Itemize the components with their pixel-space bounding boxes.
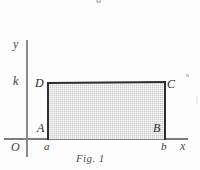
- y-tick-label-k: k: [13, 75, 18, 87]
- origin-label: O: [11, 141, 20, 153]
- figure-canvas: 0 y k O x A B C D a b Fig. 1: [0, 0, 200, 170]
- scan-edge-artifact: [196, 96, 198, 104]
- vertex-label-d: D: [35, 77, 44, 89]
- vertex-label-b: B: [153, 122, 160, 134]
- vertex-label-a: A: [37, 122, 44, 134]
- scan-speck-top-icon: [98, 1, 100, 3]
- scan-speck-right-icon: [186, 74, 189, 77]
- figure-caption: Fig. 1: [76, 152, 105, 164]
- shaded-rectangle-region: [47, 83, 165, 139]
- y-axis-label: y: [13, 38, 18, 50]
- vertex-label-c: C: [167, 78, 175, 90]
- y-axis-line: [26, 40, 28, 157]
- x-tick-label-a: a: [44, 141, 50, 152]
- rectangle-edge-bc: [164, 82, 166, 140]
- x-axis-label: x: [180, 140, 185, 152]
- rectangle-edge-ad: [47, 83, 49, 140]
- x-tick-label-b: b: [161, 141, 167, 152]
